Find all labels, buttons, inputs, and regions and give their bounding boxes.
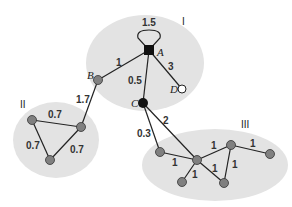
node-label-A: A (156, 46, 164, 58)
weight-hub-n3: 1 (211, 140, 217, 151)
weight-hub-bl: 1 (192, 169, 198, 180)
node-III-1 (156, 148, 165, 157)
node-label-D: D (169, 83, 178, 95)
cluster-I-region (86, 15, 204, 111)
node-D (178, 85, 186, 93)
weight-B-II: 1.7 (76, 94, 90, 105)
node-label-C: C (131, 97, 139, 109)
weight-A-B: 1 (116, 57, 122, 68)
weight-A-C: 0.5 (128, 75, 142, 86)
node-III-hub (193, 156, 202, 165)
node-label-B: B (87, 69, 94, 81)
weight-II-top: 0.7 (48, 109, 62, 120)
node-II-left (28, 116, 37, 125)
weight-hub-br: 1 (212, 163, 218, 174)
node-III-3 (227, 141, 236, 150)
node-C (138, 98, 148, 108)
weight-n3-n4: 1 (250, 138, 256, 149)
weight-C-III1: 0.3 (137, 128, 151, 139)
node-III-br (220, 179, 229, 188)
cluster-label-III: III (241, 119, 249, 130)
node-II-bottom (46, 156, 55, 165)
weight-II-left: 0.7 (26, 140, 40, 151)
graph-diagram: A B C D I II III 1.5 1 0.5 3 1.7 0.7 0.7… (0, 0, 292, 207)
weight-II-right: 0.7 (70, 144, 84, 155)
weight-A-loop: 1.5 (142, 17, 156, 28)
cluster-label-II: II (20, 99, 26, 110)
node-B (94, 76, 103, 85)
node-III-bl (178, 178, 187, 187)
cluster-label-I: I (182, 16, 185, 27)
node-III-4 (266, 150, 275, 159)
weight-A-D: 3 (168, 61, 174, 72)
node-II-right (77, 123, 86, 132)
weight-III1-hub: 1 (172, 157, 178, 168)
weight-n3-br: 1 (232, 159, 238, 170)
node-A (144, 45, 154, 55)
weight-C-hub: 2 (163, 115, 169, 126)
